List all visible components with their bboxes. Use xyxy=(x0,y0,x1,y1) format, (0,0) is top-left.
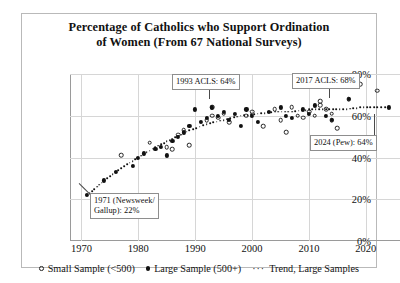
trend-line-dot xyxy=(376,107,378,109)
chart-title-line-1: Percentage of Catholics who Support Ordi… xyxy=(22,20,376,35)
open-circle-icon xyxy=(39,266,44,271)
data-point xyxy=(244,113,249,118)
data-point xyxy=(164,145,169,150)
trend-line-dot xyxy=(380,107,382,109)
x-axis-tick-label: 2020 xyxy=(355,243,376,254)
trend-line-dot xyxy=(373,107,375,109)
data-point xyxy=(295,113,300,118)
trend-line-dot xyxy=(189,130,191,132)
data-point xyxy=(119,153,124,158)
trend-line-dot xyxy=(91,190,93,192)
ann-2017: 2017 ACLS: 68% xyxy=(292,73,360,89)
data-point xyxy=(335,126,340,131)
trend-line-dot xyxy=(163,142,165,144)
trend-line-dot xyxy=(349,108,351,110)
x-axis-tick-label: 2000 xyxy=(242,243,263,254)
data-point xyxy=(210,113,215,118)
trend-line-dot xyxy=(98,184,100,186)
trend-line-dot xyxy=(260,112,262,114)
trend-line-dot xyxy=(123,165,125,167)
trend-line-dot xyxy=(277,111,279,113)
legend-label: Trend, Large Samples xyxy=(269,263,359,274)
data-point xyxy=(278,118,283,123)
trend-line-dot xyxy=(329,109,331,111)
trend-line-dot xyxy=(223,119,225,121)
trend-line-dot xyxy=(370,107,372,109)
trend-line-dot xyxy=(312,109,314,111)
legend-item: Large Sample (500+) xyxy=(146,263,241,274)
y-axis-tick-label: 40% xyxy=(332,152,376,163)
data-point xyxy=(301,116,306,121)
legend-item: Small Sample (<500) xyxy=(39,263,135,274)
trend-line-dot xyxy=(281,111,283,113)
trend-line-dot xyxy=(206,123,208,125)
trend-line-dot xyxy=(288,111,290,113)
chart-title: Percentage of Catholics who Support Ordi… xyxy=(22,20,376,50)
trend-line-dot xyxy=(118,169,120,171)
trend-line-dot xyxy=(106,178,108,180)
trend-line-dot xyxy=(132,160,134,162)
trend-line-dot xyxy=(149,150,151,152)
trend-line-dot xyxy=(384,107,386,109)
trend-line-dot xyxy=(126,164,128,166)
data-point xyxy=(273,107,278,112)
trend-line-dot xyxy=(315,109,317,111)
trend-line-dot xyxy=(359,107,361,109)
trend-line-dot xyxy=(257,113,259,115)
trend-line-dot xyxy=(166,141,168,143)
chart-title-line-2: of Women (From 67 National Surveys) xyxy=(22,35,376,50)
data-point xyxy=(290,105,295,110)
trend-line-dot xyxy=(294,110,296,112)
trend-line-dot xyxy=(120,167,122,169)
legend-label: Large Sample (500+) xyxy=(154,263,241,274)
filled-circle-icon xyxy=(146,266,150,270)
trend-line-dot xyxy=(264,112,266,114)
legend-label: Small Sample (<500) xyxy=(48,263,135,274)
data-point xyxy=(324,107,329,112)
y-axis-tick-label: 20% xyxy=(332,194,376,205)
trend-line-dot xyxy=(209,122,211,124)
trend-line-dot xyxy=(109,175,111,177)
x-axis-tick-label: 1980 xyxy=(128,243,149,254)
trend-line-dot xyxy=(318,109,320,111)
data-point xyxy=(147,141,152,146)
x-axis-tick-label: 1990 xyxy=(185,243,206,254)
trend-line-dot xyxy=(192,128,194,130)
data-point xyxy=(187,143,192,148)
annotation-leader-line xyxy=(374,114,375,135)
trend-line-dot xyxy=(202,125,204,127)
trend-line-dot xyxy=(199,126,201,128)
chart-legend: Small Sample (<500)Large Sample (500+)··… xyxy=(22,263,376,274)
data-point xyxy=(284,130,289,135)
trend-line-dot xyxy=(213,122,215,124)
dotted-line-icon: ··· xyxy=(252,263,265,274)
trend-line-dot xyxy=(356,107,358,109)
ann-1971: 1971 (Newsweek/ Gallup): 22% xyxy=(90,193,159,219)
gridline-vertical xyxy=(81,74,82,241)
gridline-vertical xyxy=(195,74,196,241)
ann-2024: 2024 (Pew): 64% xyxy=(310,135,377,151)
chart-frame: Percentage of Catholics who Support Ordi… xyxy=(21,13,377,268)
trend-line-dot xyxy=(240,115,242,117)
gridline-vertical xyxy=(252,74,253,241)
trend-line-dot xyxy=(195,127,197,129)
x-axis-tick-label: 1970 xyxy=(71,243,92,254)
legend-item: ···Trend, Large Samples xyxy=(252,263,359,274)
trend-line-dot xyxy=(94,188,96,190)
trend-line-dot xyxy=(233,117,235,119)
trend-line-dot xyxy=(216,121,218,123)
trend-line-dot xyxy=(140,155,142,157)
ann-1993: 1993 ACLS: 64% xyxy=(172,74,240,90)
x-axis-tick-label: 2010 xyxy=(298,243,319,254)
trend-line-dot xyxy=(219,120,221,122)
trend-line-dot xyxy=(298,110,300,112)
data-point xyxy=(375,88,380,93)
trend-line-dot xyxy=(146,151,148,153)
data-point xyxy=(318,103,323,108)
trend-line-dot xyxy=(291,111,293,113)
trend-line-dot xyxy=(366,107,368,109)
trend-line-dot xyxy=(353,107,355,109)
trend-line-dot xyxy=(284,111,286,113)
trend-line-dot xyxy=(96,186,98,188)
trend-line-dot xyxy=(236,116,238,118)
